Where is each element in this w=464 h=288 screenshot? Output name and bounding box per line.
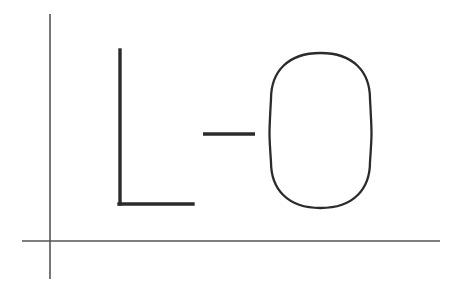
sketch-drawing [0,0,464,288]
sketch-canvas: L—O Large handwritten capital L, an em d… [0,0,464,288]
canvas-background [0,0,464,288]
